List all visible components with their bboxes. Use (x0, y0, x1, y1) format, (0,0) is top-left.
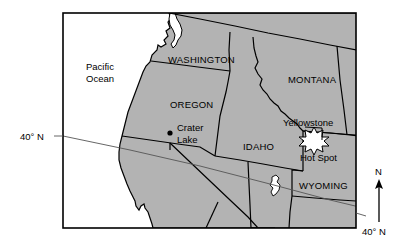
latitude-leader-right (356, 213, 366, 216)
ocean-label-line1: Pacific (86, 61, 114, 72)
map-svg: Pacific Ocean WASHINGTON OREGON MONTANA … (0, 0, 413, 245)
map-figure: Pacific Ocean WASHINGTON OREGON MONTANA … (0, 0, 413, 245)
state-label-idaho: IDAHO (243, 141, 274, 152)
latitude-label-right: 40° N (362, 226, 386, 237)
crater-lake-marker (167, 130, 172, 135)
place-label-yellowstone: Yellowstone (283, 117, 333, 128)
state-label-wyoming: WYOMING (299, 180, 348, 191)
compass-north-label: N (375, 166, 382, 177)
state-label-oregon: OREGON (170, 99, 213, 110)
place-label-hot-spot: Hot Spot (300, 152, 337, 163)
latitude-label-left: 40° N (20, 131, 44, 142)
place-label-crater-lake-line2: Lake (177, 134, 198, 145)
ocean-label-line2: Ocean (86, 73, 114, 84)
state-label-washington: WASHINGTON (168, 54, 235, 65)
state-label-montana: MONTANA (288, 74, 337, 85)
place-label-crater-lake-line1: Crater (177, 122, 203, 133)
